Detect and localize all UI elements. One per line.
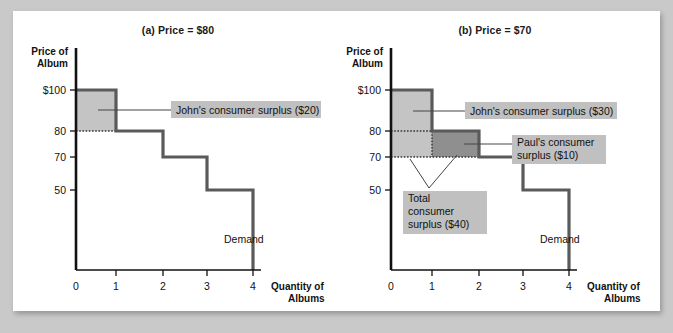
panel-price-70: (b) Price = $70 [330, 11, 660, 311]
total-callout-label-line3: surplus ($40) [408, 218, 469, 230]
x-tick-label-4: 4 [250, 280, 256, 292]
x-tick-label-2: 2 [160, 280, 166, 292]
total-callout-label-line2: consumer [408, 205, 455, 217]
y-tick-label-70: 70 [369, 151, 381, 163]
x-tick-label-1: 1 [113, 280, 119, 292]
x-axis-title-line1: Quantity of [587, 281, 640, 292]
x-tick-label-3: 3 [204, 280, 210, 292]
y-tick-label-100: $100 [43, 84, 67, 96]
x-axis-title-line1: Quantity of [271, 281, 324, 292]
y-axis-title-line1: Price of [346, 46, 383, 57]
y-tick-label-50: 50 [369, 184, 381, 196]
total-callout-leader-line-right [429, 155, 457, 188]
total-callout-label-line1: Total [408, 192, 430, 204]
johns-callout-label: John's consumer surplus ($30) [470, 105, 613, 117]
y-tick-label-100: $100 [358, 84, 382, 96]
panel-a-chart: $100 80 70 50 0 1 2 3 4 Price of Album Q… [13, 11, 343, 311]
x-tick-label-1: 1 [429, 280, 435, 292]
panel-b-chart: $100 80 70 50 0 1 2 3 4 Price of Album Q… [330, 11, 660, 311]
y-tick-label-70: 70 [54, 151, 66, 163]
y-tick-label-80: 80 [369, 125, 381, 137]
y-tick-label-50: 50 [54, 184, 66, 196]
panel-price-80: (a) Price = $80 [13, 11, 343, 311]
x-tick-label-3: 3 [520, 280, 526, 292]
johns-consumer-surplus-region [391, 90, 432, 157]
figure-root: (a) Price = $80 [0, 0, 673, 333]
x-tick-label-4: 4 [566, 280, 572, 292]
x-axis-title-line2: Albums [288, 293, 325, 304]
total-callout-leader-line-left [410, 159, 429, 188]
x-tick-label-0: 0 [388, 280, 394, 292]
pauls-callout-label-line1: Paul's consumer [517, 136, 595, 148]
x-tick-label-0: 0 [73, 280, 79, 292]
y-axis-title-line2: Album [352, 58, 383, 69]
y-axis-title-line2: Album [37, 58, 68, 69]
pauls-callout-label-line2: surplus ($10) [517, 149, 578, 161]
x-tick-label-2: 2 [476, 280, 482, 292]
y-axis-title-line1: Price of [31, 46, 68, 57]
demand-curve-label: Demand [540, 233, 580, 245]
y-tick-label-80: 80 [54, 125, 66, 137]
x-axis-title-line2: Albums [604, 293, 641, 304]
figure-card: (a) Price = $80 [13, 11, 660, 311]
demand-curve-label: Demand [224, 233, 264, 245]
johns-callout-label: John's consumer surplus ($20) [176, 104, 319, 116]
